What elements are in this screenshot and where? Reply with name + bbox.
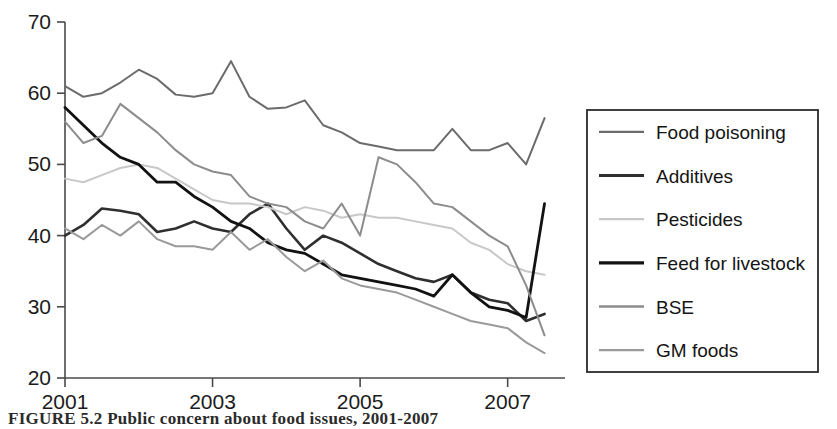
- legend-label: BSE: [656, 297, 694, 318]
- figure-container: 203040506070 2001200320052007 Food poiso…: [0, 0, 837, 429]
- x-tick-label: 2007: [484, 390, 531, 413]
- legend-box: [587, 110, 818, 372]
- y-tick-label: 50: [28, 152, 51, 175]
- series-line: [65, 107, 545, 317]
- figure-caption: FIGURE 5.2 Public concern about food iss…: [8, 409, 438, 429]
- chart-legend: Food poisoningAdditivesPesticidesFeed fo…: [587, 110, 818, 372]
- line-chart: 203040506070 2001200320052007 Food poiso…: [0, 0, 837, 429]
- series-lines: [65, 61, 545, 353]
- legend-label: Additives: [656, 166, 733, 187]
- axis-lines: [57, 22, 565, 387]
- series-line: [65, 164, 545, 274]
- series-line: [65, 221, 545, 353]
- y-tick-label: 20: [28, 366, 51, 389]
- series-line: [65, 104, 545, 335]
- legend-label: GM foods: [656, 340, 738, 361]
- y-axis-tick-labels: 203040506070: [28, 10, 51, 389]
- y-tick-label: 70: [28, 10, 51, 33]
- y-tick-label: 60: [28, 81, 51, 104]
- y-tick-label: 30: [28, 295, 51, 318]
- legend-label: Pesticides: [656, 209, 743, 230]
- series-line: [65, 61, 545, 164]
- legend-label: Food poisoning: [656, 122, 786, 143]
- y-tick-label: 40: [28, 224, 51, 247]
- legend-label: Feed for livestock: [656, 253, 805, 274]
